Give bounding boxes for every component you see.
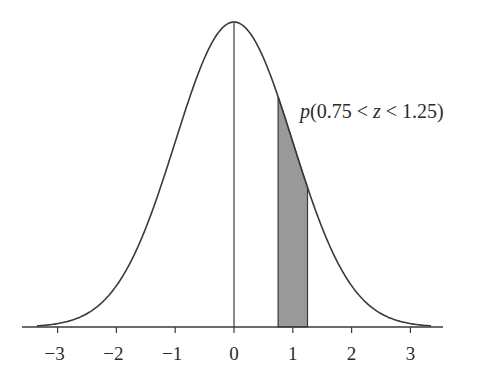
x-tick-label: −3 <box>44 343 64 364</box>
x-axis-tick-labels: −3−2−10123 <box>44 343 415 364</box>
probability-annotation: p(0.75 < z < 1.25) <box>298 100 444 123</box>
x-tick-label: 1 <box>288 343 298 364</box>
shaded-region-0.75-to-1.25 <box>278 97 307 327</box>
x-tick-label: 0 <box>229 343 239 364</box>
annotation-body: (0.75 < <box>310 100 373 123</box>
annotation-p: p <box>298 100 310 123</box>
annotation-z: z <box>372 100 381 122</box>
annotation-suffix: < 1.25) <box>381 100 444 123</box>
x-axis-ticks <box>58 327 411 333</box>
x-tick-label: 2 <box>347 343 357 364</box>
x-tick-label: −2 <box>103 343 123 364</box>
normal-distribution-chart: −3−2−10123 p(0.75 < z < 1.25) <box>0 0 480 386</box>
x-tick-label: −1 <box>162 343 182 364</box>
shaded-area <box>278 97 307 327</box>
x-tick-label: 3 <box>406 343 416 364</box>
